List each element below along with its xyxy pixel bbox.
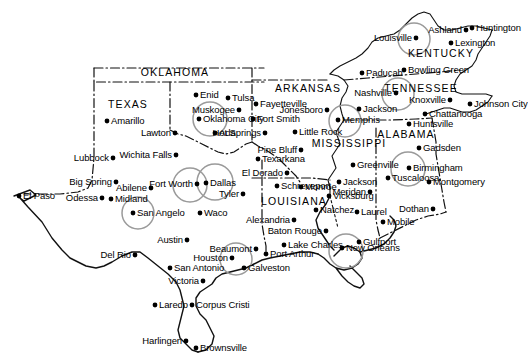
city-dot[interactable] [414, 36, 419, 41]
city-dot[interactable] [282, 243, 287, 248]
city-label[interactable]: Baton Rouge [268, 226, 322, 236]
city-dot[interactable] [230, 256, 235, 261]
city-label[interactable]: Laurel [361, 207, 387, 217]
city-dot[interactable] [197, 117, 202, 122]
city-dot[interactable] [285, 171, 290, 176]
city-label[interactable]: Alexandria [246, 215, 290, 225]
city-dot[interactable] [173, 131, 178, 136]
city-dot[interactable] [204, 181, 209, 186]
city-label[interactable]: Hot Springs [212, 128, 261, 138]
city-dot[interactable] [324, 229, 329, 234]
map-canvas[interactable]: OKLAHOMATEXASARKANSASMISSISSIPPILOUISIAN… [0, 0, 528, 364]
city-dot[interactable] [264, 252, 269, 257]
city-label[interactable]: Nashville [354, 88, 392, 98]
city-label[interactable]: Austin [157, 235, 183, 245]
city-dot[interactable] [327, 194, 332, 199]
city-dot[interactable] [407, 122, 412, 127]
city-label[interactable]: Galveston [248, 263, 290, 273]
city-label[interactable]: Paducah [366, 68, 403, 78]
city-label[interactable]: Amarillo [111, 116, 145, 126]
city-label[interactable]: Lubbock [74, 153, 109, 163]
city-label[interactable]: Del Rio [101, 250, 131, 260]
city-label[interactable]: Big Spring [69, 177, 112, 187]
city-dot[interactable] [431, 207, 436, 212]
city-dot[interactable] [17, 194, 22, 199]
city-label[interactable]: Lexington [455, 38, 495, 48]
city-label[interactable]: Abilene [116, 183, 147, 193]
city-dot[interactable] [448, 98, 453, 103]
city-dot[interactable] [153, 303, 158, 308]
city-dot[interactable] [292, 218, 297, 223]
city-dot[interactable] [254, 247, 259, 252]
city-label[interactable]: Brownsville [200, 343, 247, 353]
city-label[interactable]: Bowling Green [408, 65, 469, 75]
city-dot[interactable] [464, 28, 469, 33]
city-dot[interactable] [314, 208, 319, 213]
city-dot[interactable] [194, 93, 199, 98]
city-label[interactable]: El Paso [23, 191, 55, 201]
city-label[interactable]: Jonesboro [280, 105, 323, 115]
city-dot[interactable] [190, 303, 195, 308]
city-dot[interactable] [293, 130, 298, 135]
city-dot[interactable] [360, 71, 365, 76]
city-dot[interactable] [198, 211, 203, 216]
city-dot[interactable] [351, 163, 356, 168]
city-dot[interactable] [275, 184, 280, 189]
city-dot[interactable] [325, 108, 330, 113]
city-label[interactable]: Tyler [219, 189, 239, 199]
city-dot[interactable] [470, 26, 475, 31]
city-label[interactable]: Oklahoma City [203, 114, 264, 124]
city-dot[interactable] [336, 118, 341, 123]
city-dot[interactable] [194, 346, 199, 351]
city-dot[interactable] [468, 102, 473, 107]
city-dot[interactable] [449, 41, 454, 46]
city-dot[interactable] [417, 146, 422, 151]
city-dot[interactable] [299, 148, 304, 153]
city-label[interactable]: Midland [115, 194, 148, 204]
city-label[interactable]: Dallas [210, 178, 236, 188]
city-dot[interactable] [195, 182, 200, 187]
city-label[interactable]: Mobile [387, 217, 414, 227]
city-dot[interactable] [241, 192, 246, 197]
city-label[interactable]: Houston [193, 253, 228, 263]
city-label[interactable]: San Antonio [174, 263, 224, 273]
city-dot[interactable] [100, 196, 105, 201]
city-label[interactable]: Victoria [168, 276, 199, 286]
city-dot[interactable] [337, 180, 342, 185]
city-label[interactable]: Odessa [66, 193, 98, 203]
city-label[interactable]: Jackson [363, 104, 397, 114]
city-dot[interactable] [355, 210, 360, 215]
city-label[interactable]: Huntsville [413, 119, 453, 129]
city-label[interactable]: Corpus Cristi [196, 300, 250, 310]
city-label[interactable]: Harlingen [142, 336, 182, 346]
city-label[interactable]: Waco [204, 208, 228, 218]
city-label[interactable]: Louisville [374, 33, 412, 43]
city-label[interactable]: Fort Smith [257, 114, 300, 124]
city-dot[interactable] [242, 266, 247, 271]
city-label[interactable]: Beaumont [209, 244, 252, 254]
city-dot[interactable] [423, 112, 428, 117]
city-dot[interactable] [386, 176, 391, 181]
city-label[interactable]: El Dorado [242, 168, 283, 178]
city-dot[interactable] [111, 156, 116, 161]
city-dot[interactable] [133, 253, 138, 258]
city-label[interactable]: Montgomery [433, 177, 485, 187]
city-label[interactable]: Gadsden [423, 143, 461, 153]
city-label[interactable]: Ashland [428, 25, 462, 35]
city-label[interactable]: Lawton [141, 128, 171, 138]
city-label[interactable]: Natchez [320, 205, 354, 215]
city-dot[interactable] [168, 266, 173, 271]
city-dot[interactable] [226, 96, 231, 101]
city-dot[interactable] [407, 166, 412, 171]
city-label[interactable]: Greenville [357, 160, 399, 170]
city-dot[interactable] [184, 339, 189, 344]
city-label[interactable]: Fort Worth [149, 179, 193, 189]
city-label[interactable]: Dothan [399, 204, 429, 214]
city-label[interactable]: Knoxville [409, 95, 446, 105]
city-label[interactable]: Johnson City [474, 99, 528, 109]
city-label[interactable]: Meridan [332, 187, 366, 197]
city-dot[interactable] [174, 153, 179, 158]
city-dot[interactable] [381, 220, 386, 225]
city-dot[interactable] [109, 197, 114, 202]
city-dot[interactable] [357, 107, 362, 112]
